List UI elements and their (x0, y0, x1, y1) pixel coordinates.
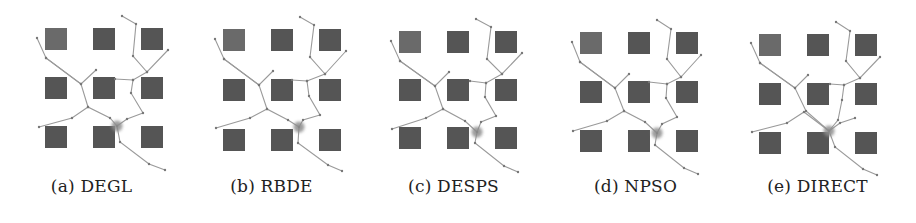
obstacle-square (93, 126, 115, 148)
obstacle-square (759, 34, 781, 56)
waypoint-node (474, 142, 476, 144)
panel-desps: (c) DESPS (362, 0, 545, 223)
waypoint-node (879, 56, 881, 58)
waypoint-node (803, 111, 805, 113)
obstacle-square (45, 77, 67, 99)
waypoint-node (786, 122, 788, 124)
waypoint-node (469, 80, 471, 82)
waypoint-node (521, 52, 523, 54)
obstacle-square (676, 81, 698, 103)
obstacle-square (628, 32, 650, 54)
waypoint-node (841, 99, 843, 101)
waypoint-node (297, 142, 299, 144)
waypoint-node (36, 37, 38, 39)
waypoint-node (503, 165, 505, 167)
obstacle-square (319, 29, 341, 51)
waypoint-node (495, 115, 497, 117)
waypoint-node (680, 76, 682, 78)
panel-rbde: (b) RBDE (180, 0, 363, 223)
waypoint-node (486, 58, 488, 60)
waypoint-node (448, 71, 450, 73)
trajectory-path (829, 85, 844, 131)
trajectory-path (216, 109, 267, 128)
waypoint-node (480, 121, 482, 123)
waypoint-node (142, 112, 144, 114)
waypoint-node (135, 23, 137, 25)
waypoint-node (45, 57, 47, 59)
waypoint-node (302, 119, 304, 121)
obstacle-square (447, 31, 469, 53)
caption-rbde: (b) RBDE (180, 176, 363, 196)
waypoint-node (71, 117, 73, 119)
obstacle-square (855, 34, 877, 56)
waypoint-node (327, 164, 329, 166)
obstacle-square (628, 130, 650, 152)
obstacle-square (580, 32, 602, 54)
waypoint-node (313, 24, 315, 26)
waypoint-node (834, 146, 836, 148)
obstacle-square (676, 130, 698, 152)
obstacle-square (271, 79, 293, 101)
waypoint-node (623, 110, 625, 112)
obstacle-square (807, 34, 829, 56)
obstacle-square (447, 127, 469, 149)
waypoint-node (399, 60, 401, 62)
waypoint-node (132, 79, 134, 81)
waypoint-node (109, 117, 111, 119)
caption-direct: (e) DIRECT (726, 176, 909, 196)
waypoint-node (750, 42, 752, 44)
waypoint-node (700, 54, 702, 56)
obstacle-square (93, 28, 115, 50)
waypoint-node (130, 92, 132, 94)
waypoint-node (324, 73, 326, 75)
waypoint-node (666, 58, 668, 60)
panel-direct: (e) DIRECT (726, 0, 909, 223)
waypoint-node (114, 78, 116, 80)
target-blob (294, 122, 305, 133)
waypoint-node (490, 26, 492, 28)
trajectory-path (573, 111, 624, 131)
waypoint-node (628, 73, 630, 75)
waypoint-node (475, 18, 477, 20)
waypoint-node (759, 62, 761, 64)
waypoint-node (442, 108, 444, 110)
waypoint-node (38, 126, 40, 128)
obstacle-square (495, 31, 517, 53)
waypoint-node (291, 79, 293, 81)
obstacle-square (141, 126, 163, 148)
waypoint-node (119, 141, 121, 143)
waypoint-node (391, 128, 393, 130)
waypoint-node (837, 119, 839, 121)
waypoint-node (345, 50, 347, 52)
obstacle-square (223, 29, 245, 51)
waypoint-node (425, 117, 427, 119)
waypoint-node (249, 117, 251, 119)
panel-degl: (a) DEGL (0, 0, 183, 223)
obstacle-square (223, 129, 245, 151)
waypoint-node (287, 119, 289, 121)
waypoint-node (676, 116, 678, 118)
obstacle-square (319, 79, 341, 101)
waypoint-node (272, 70, 274, 72)
waypoint-node (654, 144, 656, 146)
waypoint-node (666, 83, 668, 85)
obstacle-square (807, 83, 829, 105)
waypoint-node (214, 38, 216, 40)
waypoint-node (266, 108, 268, 110)
caption-degl: (a) DEGL (0, 176, 183, 196)
waypoint-node (306, 80, 308, 82)
waypoint-node (390, 40, 392, 42)
waypoint-node (697, 173, 699, 175)
obstacle-square (141, 77, 163, 99)
waypoint-node (579, 61, 581, 63)
waypoint-node (571, 41, 573, 43)
trajectory-path (392, 109, 443, 129)
waypoint-node (464, 120, 466, 122)
obstacle-square (855, 132, 877, 154)
waypoint-node (862, 168, 864, 170)
caption-desps: (c) DESPS (362, 176, 545, 196)
waypoint-node (132, 55, 134, 57)
waypoint-node (319, 114, 321, 116)
waypoint-node (501, 73, 503, 75)
obstacle-square (271, 129, 293, 151)
